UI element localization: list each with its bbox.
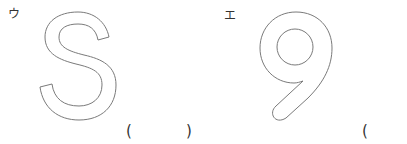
answer-open-paren-e: ( — [362, 124, 368, 139]
answer-open-paren-u: ( — [126, 124, 132, 139]
answer-close-paren-u: ) — [186, 124, 192, 139]
item-label-e: エ — [224, 10, 236, 22]
outline-digit-9-icon — [258, 10, 334, 122]
item-label-u: ウ — [8, 8, 20, 20]
outline-letter-s-icon — [38, 10, 120, 122]
